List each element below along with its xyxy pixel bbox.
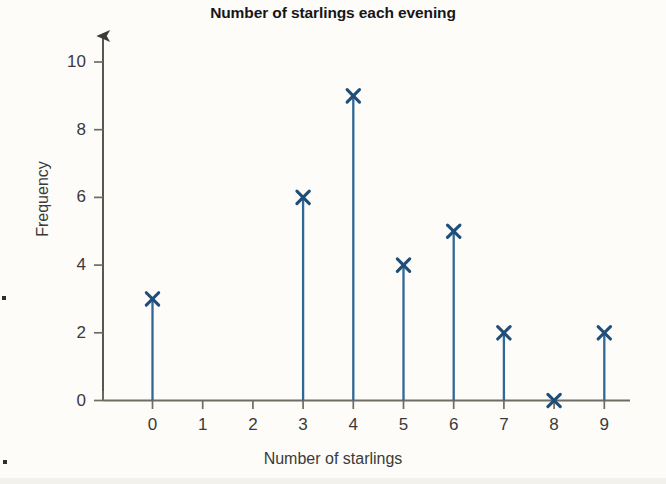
x-tick-label-0: 0 (148, 415, 157, 435)
x-tick-label-3: 3 (298, 415, 307, 435)
x-tick-label-9: 9 (600, 415, 609, 435)
x-tick-label-8: 8 (549, 415, 558, 435)
y-tick-label-2: 2 (40, 323, 86, 343)
x-tick-label-2: 2 (248, 415, 257, 435)
chart-figure: Number of starlings each evening 0246810… (0, 0, 666, 484)
data-point-markers (146, 90, 610, 407)
x-tick-label-1: 1 (198, 415, 207, 435)
y-tick-marks (94, 62, 103, 401)
plot-area (0, 0, 666, 484)
x-axis-title: Number of starlings (0, 450, 666, 468)
y-tick-label-8: 8 (40, 120, 86, 140)
x-tick-label-4: 4 (349, 415, 358, 435)
x-tick-label-7: 7 (499, 415, 508, 435)
y-axis-title: Frequency (34, 139, 52, 259)
y-tick-label-10: 10 (40, 52, 86, 72)
x-tick-label-5: 5 (399, 415, 408, 435)
y-tick-label-0: 0 (40, 391, 86, 411)
x-tick-label-6: 6 (449, 415, 458, 435)
data-stem-lines (153, 96, 605, 401)
